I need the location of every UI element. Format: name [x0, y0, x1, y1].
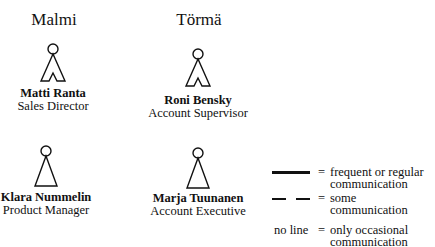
- no-line-label: no line: [274, 224, 308, 236]
- female-person-icon: [183, 147, 213, 191]
- dashed-line-symbol: [272, 196, 312, 200]
- person-title: Account Executive: [128, 205, 268, 218]
- person-klara-nummelin: Klara Nummelin Product Manager: [0, 145, 116, 217]
- equals-sign: =: [318, 192, 325, 204]
- equals-sign: =: [318, 224, 325, 236]
- person-matti-ranta: Matti Ranta Sales Director: [0, 43, 123, 113]
- legend-text: only occasional communication: [330, 224, 430, 247]
- group-title-malmi: Malmi: [4, 10, 104, 30]
- person-title: Account Supervisor: [128, 107, 268, 120]
- person-title: Sales Director: [0, 100, 123, 113]
- male-person-icon: [38, 43, 68, 85]
- legend-item-frequent: = frequent or regular communication: [272, 166, 432, 192]
- legend-text: frequent or regular communication: [330, 166, 435, 190]
- group-title-torma: Törmä: [149, 10, 249, 30]
- legend: = frequent or regular communication = so…: [272, 166, 432, 247]
- person-roni-bensky: Roni Bensky Account Supervisor: [128, 48, 268, 120]
- female-person-icon: [31, 145, 61, 189]
- male-person-icon: [183, 48, 213, 90]
- solid-line-symbol: [272, 170, 312, 174]
- legend-item-occasional: no line = only occasional communication: [272, 224, 432, 247]
- equals-sign: =: [318, 166, 325, 178]
- legend-item-some: = some communication: [272, 192, 432, 218]
- person-marja-tuunanen: Marja Tuunanen Account Executive: [128, 147, 268, 218]
- person-title: Product Manager: [0, 204, 116, 217]
- legend-text: some communication: [330, 192, 410, 216]
